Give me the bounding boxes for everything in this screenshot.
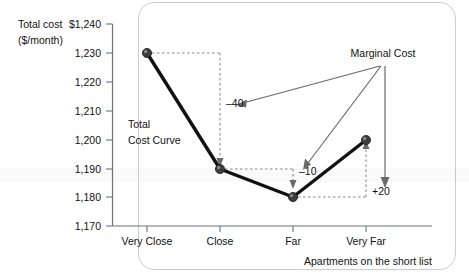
x-tick-label-close: Close	[207, 235, 234, 247]
step-guides-group	[147, 53, 366, 197]
delta-label-minus-40: –40	[226, 97, 244, 109]
leader-to-minus-10	[308, 66, 381, 163]
data-point-very-close[interactable]	[142, 48, 151, 57]
arrowhead-minus-10-icon	[290, 180, 297, 189]
figure-container: $1,240 1,230 1,220 1,210 1,200 1,190 1,1…	[0, 0, 469, 273]
series-label-line1: Total	[128, 118, 150, 130]
y-tick-label-1220: 1,220	[75, 76, 101, 88]
y-tick-label-1240: $1,240	[69, 18, 101, 30]
data-point-close-highlight	[217, 166, 220, 169]
x-axis-tick-labels: Very Close Close Far Very Far	[122, 235, 387, 247]
y-tick-label-1230: 1,230	[75, 47, 101, 59]
total-cost-chart: $1,240 1,230 1,220 1,210 1,200 1,190 1,1…	[0, 0, 469, 273]
y-tick-label-1190: 1,190	[75, 163, 101, 175]
x-tick-label-very-far: Very Far	[346, 235, 386, 247]
total-cost-curve	[147, 53, 366, 197]
marginal-cost-label: Marginal Cost	[351, 47, 416, 59]
y-axis-title-line2: ($/month)	[18, 34, 63, 46]
y-tick-label-1170: 1,170	[75, 220, 101, 232]
marginal-cost-leaders	[243, 66, 385, 180]
x-tick-label-very-close: Very Close	[122, 235, 173, 247]
y-axis-title: Total cost ($/month)	[18, 18, 63, 46]
data-point-very-close-highlight	[144, 50, 147, 53]
y-tick-label-1180: 1,180	[75, 191, 101, 203]
y-axis-tick-labels: $1,240 1,230 1,220 1,210 1,200 1,190 1,1…	[69, 18, 101, 232]
data-point-very-far-highlight	[363, 137, 366, 140]
delta-label-minus-10: –10	[299, 165, 317, 177]
y-axis-ticks	[106, 24, 113, 226]
y-tick-label-1210: 1,210	[75, 105, 101, 117]
series-label-line2: Cost Curve	[128, 134, 181, 146]
cost-curve-line	[147, 53, 366, 197]
data-point-far-highlight	[290, 194, 293, 197]
x-axis-ticks	[147, 226, 366, 232]
delta-label-plus-20: +20	[372, 185, 390, 197]
y-axis-title-line1: Total cost	[18, 18, 62, 30]
series-label: Total Cost Curve	[128, 118, 181, 146]
guide-arrowheads	[217, 140, 370, 189]
leader-to-minus-40	[243, 66, 380, 103]
data-point-very-far[interactable]	[361, 135, 370, 144]
x-tick-label-far: Far	[285, 235, 301, 247]
data-point-far[interactable]	[288, 192, 297, 201]
x-axis-title: Apartments on the short list	[304, 255, 432, 267]
y-tick-label-1200: 1,200	[75, 134, 101, 146]
data-point-close[interactable]	[215, 164, 224, 173]
